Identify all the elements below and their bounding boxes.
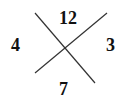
label-top: 12 [59,9,77,27]
label-right: 3 [106,36,115,54]
label-bottom: 7 [59,80,68,98]
label-left: 4 [11,36,20,54]
